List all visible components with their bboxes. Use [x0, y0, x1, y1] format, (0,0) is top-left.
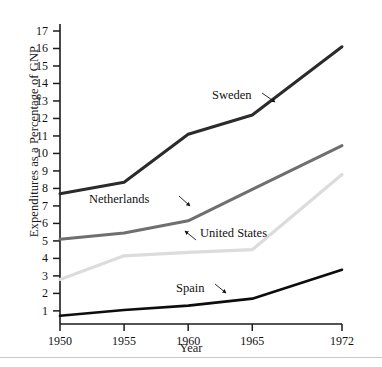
y-tick-label: 3 — [26, 270, 48, 282]
y-tick-label: 2 — [26, 287, 48, 299]
series-line-sweden — [60, 47, 342, 194]
x-tick-label: 1972 — [315, 335, 369, 347]
x-tick-label: 1955 — [97, 335, 151, 347]
y-tick-label: 4 — [26, 252, 48, 264]
y-tick-label: 10 — [26, 147, 48, 159]
y-tick-label: 6 — [26, 217, 48, 229]
y-tick-label: 13 — [26, 95, 48, 107]
chart-figure: Expenditures as a Percentage of GNP Year… — [0, 0, 382, 367]
x-tick-label: 1965 — [225, 335, 279, 347]
leader-arrow-spain — [215, 284, 226, 293]
y-tick-label: 14 — [26, 77, 48, 89]
y-tick-label: 7 — [26, 200, 48, 212]
x-tick-label: 1950 — [33, 335, 87, 347]
series-label-sweden: Sweden — [212, 88, 252, 103]
y-tick-label: 9 — [26, 165, 48, 177]
y-tick-label: 17 — [26, 25, 48, 37]
y-tick-label: 11 — [26, 130, 48, 142]
x-tick-label: 1960 — [161, 335, 215, 347]
series-label-united-states: United States — [200, 226, 267, 241]
series-label-spain: Spain — [176, 281, 204, 296]
series-label-netherlands: Netherlands — [89, 192, 149, 207]
y-tick-label: 1 — [26, 305, 48, 317]
leader-arrow-united-states — [185, 231, 196, 240]
y-tick-label: 8 — [26, 182, 48, 194]
y-tick-label: 5 — [26, 235, 48, 247]
figure-bottom-rule — [0, 357, 382, 358]
y-tick-label: 15 — [26, 60, 48, 72]
y-tick-label: 12 — [26, 112, 48, 124]
leader-arrow-netherlands — [179, 196, 190, 206]
series-layer — [60, 47, 342, 316]
plot-area — [0, 0, 382, 367]
y-tick-label: 16 — [26, 42, 48, 54]
